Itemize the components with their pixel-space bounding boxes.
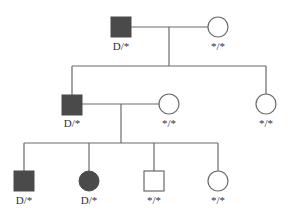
genotype-label-II-3: */* (259, 117, 273, 129)
genotype-label-I-2: */* (211, 40, 225, 52)
genotype-label-III-3: */* (147, 194, 161, 206)
individual-III-4-female (208, 171, 228, 191)
genotype-label-I-1: D/* (113, 40, 130, 52)
connector-lines (24, 27, 266, 171)
genotype-label-III-4: */* (211, 194, 225, 206)
individual-I-1-affected-male (111, 17, 131, 37)
individual-III-1-affected-male (14, 171, 34, 191)
genotype-label-II-2: */* (162, 117, 176, 129)
individual-III-3-male (144, 171, 164, 191)
individual-II-3-female (256, 94, 276, 114)
individual-III-2-affected-female (79, 171, 99, 191)
individual-I-2-female (208, 17, 228, 37)
individual-II-2-female (159, 94, 179, 114)
genotype-label-III-2: D/* (81, 194, 98, 206)
genotype-label-III-1: D/* (16, 194, 33, 206)
pedigree-chart: D/* */* D/* */* */* D/* D/* */* */* (0, 0, 290, 216)
individual-II-1-affected-male (62, 95, 82, 115)
genotype-label-II-1: D/* (64, 117, 81, 129)
